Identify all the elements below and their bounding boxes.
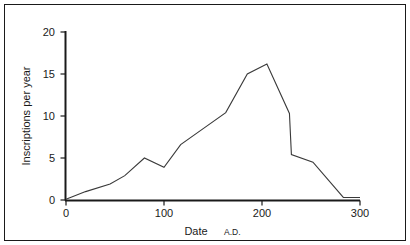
x-tick-label-200: 200 bbox=[253, 207, 271, 219]
x-axis-title-era: A.D. bbox=[224, 227, 241, 237]
x-tick-label-300: 300 bbox=[351, 207, 369, 219]
y-tick-label-5: 5 bbox=[49, 152, 55, 164]
x-tick-label-0: 0 bbox=[63, 207, 69, 219]
data-series-line bbox=[66, 64, 360, 199]
figure-container: 20 15 10 5 0 0 100 200 300 Date A.D. Ins… bbox=[0, 0, 410, 245]
y-tick-label-10: 10 bbox=[43, 110, 55, 122]
y-tick-label-20: 20 bbox=[43, 26, 55, 38]
x-axis-title: Date bbox=[184, 225, 207, 237]
y-tick-label-0: 0 bbox=[49, 194, 55, 206]
x-tick-label-100: 100 bbox=[155, 207, 173, 219]
y-axis-title: Inscriptions per year bbox=[20, 66, 32, 165]
line-chart: 20 15 10 5 0 0 100 200 300 Date A.D. Ins… bbox=[0, 0, 410, 245]
y-tick-label-15: 15 bbox=[43, 68, 55, 80]
